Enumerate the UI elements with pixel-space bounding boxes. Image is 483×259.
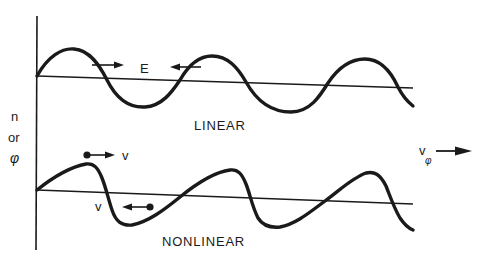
linear-wave-curve bbox=[37, 49, 413, 112]
particle-velocity-label-top: v bbox=[122, 148, 129, 163]
particle-left-icon bbox=[122, 203, 154, 210]
linear-baseline bbox=[37, 76, 413, 88]
particle-right-icon bbox=[83, 151, 115, 158]
phase-velocity-subscript: φ bbox=[425, 155, 432, 166]
linear-label: LINEAR bbox=[194, 118, 246, 133]
nonlinear-label: NONLINEAR bbox=[162, 234, 245, 249]
vertical-axis bbox=[36, 16, 37, 250]
wave-diagram: E LINEAR n or φ v φ v v NONLINEAR bbox=[0, 0, 483, 259]
nonlinear-baseline bbox=[37, 190, 413, 204]
phase-velocity-arrow-icon bbox=[436, 147, 472, 156]
y-axis-label-n: n bbox=[11, 109, 18, 124]
y-axis-label-or: or bbox=[8, 130, 20, 145]
y-axis-label-phi: φ bbox=[10, 150, 19, 166]
field-label: E bbox=[140, 61, 149, 76]
particle-velocity-label-bottom: v bbox=[95, 199, 102, 214]
